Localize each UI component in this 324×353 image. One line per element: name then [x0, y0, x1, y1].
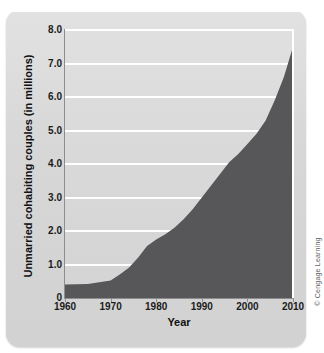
y-axis-line: [64, 29, 65, 299]
plot-frame-top-border: [65, 29, 294, 31]
x-tick-mark-2010: [293, 298, 294, 302]
figure-container: 01.02.03.04.05.06.07.08.0 19601970198019…: [0, 0, 324, 353]
x-tick-label-2010: 2010: [273, 301, 313, 312]
credit-attribution: © Cengage Learning: [314, 217, 321, 327]
x-tick-mark-2000: [247, 298, 248, 302]
area-series-unmarried-cohabiting-couples: [65, 30, 293, 298]
x-tick-label-1980: 1980: [136, 301, 176, 312]
x-tick-mark-1980: [156, 298, 157, 302]
x-tick-label-1960: 1960: [45, 301, 85, 312]
x-axis-line: [64, 298, 294, 299]
x-tick-mark-1970: [111, 298, 112, 302]
y-axis-title: Unmarried cohabiting couples (in million…: [22, 41, 34, 291]
x-axis-title: Year: [65, 316, 293, 328]
chart-plot-area: [65, 30, 293, 298]
x-tick-label-1970: 1970: [91, 301, 131, 312]
x-tick-mark-1990: [202, 298, 203, 302]
x-tick-label-2000: 2000: [227, 301, 267, 312]
x-tick-label-1990: 1990: [182, 301, 222, 312]
y-tick-label-8.0: 8.0: [28, 25, 62, 35]
plot-frame-right-border: [292, 29, 294, 299]
x-tick-mark-1960: [65, 298, 66, 302]
